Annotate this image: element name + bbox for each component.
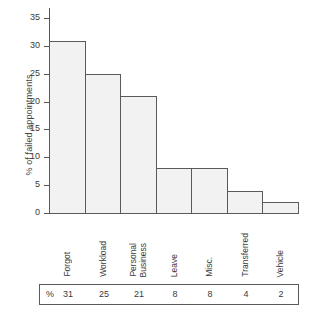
x-axis-category-label: Workload: [85, 215, 121, 277]
x-axis-category-label-line: Vehicle: [275, 250, 285, 277]
x-axis-category-labels: ForgotWorkloadPersonalBusinessLeaveMisc.…: [49, 215, 298, 277]
y-axis-tick-label: 10: [14, 152, 40, 161]
x-axis-category-label-line: Transferred: [240, 233, 250, 277]
table-cell: 8: [192, 285, 228, 304]
y-axis-tick-label-text: 15: [14, 124, 40, 133]
y-axis-tick-label-text: 35: [14, 13, 40, 22]
x-axis-category-label: Misc.: [191, 215, 227, 277]
table-cell: 4: [228, 285, 264, 304]
bar: [49, 41, 86, 214]
table-cell: 2: [263, 285, 299, 304]
y-axis-tick-label-text: 10: [14, 152, 40, 161]
table-cell: 25: [86, 285, 122, 304]
y-axis-tick-label-text: 0: [14, 208, 40, 217]
x-axis-category-label: Vehicle: [262, 215, 298, 277]
bar: [262, 202, 299, 214]
table-cell: 8: [157, 285, 193, 304]
x-axis-category-label: Forgot: [49, 215, 85, 277]
y-axis-tick-label: 25: [14, 69, 40, 78]
y-axis-tick-label-text: 5: [14, 180, 40, 189]
x-axis-category-label-line: Workload: [98, 241, 108, 277]
y-axis-tick-label: 35: [14, 13, 40, 22]
y-axis-tick-label-text: 25: [14, 69, 40, 78]
x-axis-category-label-line: Personal: [128, 243, 138, 277]
y-axis-tick-label-text: 30: [14, 41, 40, 50]
y-axis-tick-label-text: 20: [14, 97, 40, 106]
table-cell: 31: [50, 285, 86, 304]
y-axis-tick-label: 5: [14, 180, 40, 189]
y-axis-tick-label: 20: [14, 97, 40, 106]
x-axis-category-label-line: Leave: [169, 254, 179, 277]
bars-group: [49, 8, 298, 214]
bar: [120, 96, 157, 214]
x-axis-category-label: PersonalBusiness: [120, 215, 156, 277]
x-axis-category-label-line: Misc.: [204, 257, 214, 277]
x-axis-category-label: Transferred: [227, 215, 263, 277]
bar: [156, 168, 192, 214]
bar: [227, 191, 263, 214]
y-axis-tick-label: 30: [14, 41, 40, 50]
bar-chart: % of failed appointments 05101520253035 …: [0, 0, 319, 314]
bar: [85, 74, 121, 214]
x-axis-category-label-line: Business: [138, 243, 148, 278]
bar: [191, 168, 228, 214]
x-axis-category-label-line: Forgot: [62, 252, 72, 277]
data-table: % 3125218842: [39, 284, 299, 305]
y-axis-tick-label: 15: [14, 124, 40, 133]
x-axis-category-label: Leave: [156, 215, 192, 277]
y-axis-tick-label: 0: [14, 208, 40, 217]
table-cell: 21: [121, 285, 157, 304]
